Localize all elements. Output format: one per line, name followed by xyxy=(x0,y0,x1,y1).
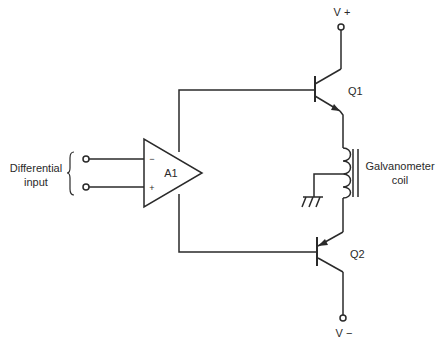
input-brace xyxy=(67,152,74,195)
transistor-q2 xyxy=(317,232,343,272)
label-q1: Q1 xyxy=(348,85,363,97)
vplus-terminal xyxy=(338,24,344,30)
wire-q1-to-coil xyxy=(340,111,343,148)
label-opamp-plus: + xyxy=(149,183,154,193)
label-vminus: V − xyxy=(336,327,353,339)
wire-center-tap xyxy=(314,174,343,197)
wire-opamp-to-q2 xyxy=(179,194,316,252)
label-opamp-minus: − xyxy=(149,154,154,164)
label-opamp-a1: A1 xyxy=(164,167,177,179)
ground-symbol xyxy=(302,197,323,207)
label-input: input xyxy=(24,176,48,188)
label-coil: coil xyxy=(392,174,409,186)
circuit-diagram: Differential input A1 − + Q1 Q2 V + V − … xyxy=(0,0,440,343)
transistor-q1 xyxy=(315,69,341,111)
label-differential: Differential xyxy=(10,162,62,174)
vminus-terminal xyxy=(340,315,346,321)
label-q2: Q2 xyxy=(350,248,365,260)
wire-opamp-to-q1 xyxy=(179,90,314,152)
galvanometer-coil xyxy=(343,148,351,198)
label-vplus: V + xyxy=(334,6,351,18)
input-terminal-plus xyxy=(83,184,144,190)
label-galvanometer: Galvanometer xyxy=(365,160,434,172)
input-terminal-minus xyxy=(83,156,144,162)
